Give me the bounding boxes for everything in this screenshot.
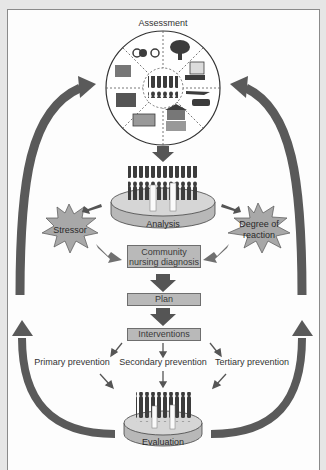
arrow-analysis-to-stressor [82, 204, 102, 214]
ambulance-icon [133, 114, 155, 126]
diagnosis-line2: nursing diagnosis [128, 257, 200, 267]
feedback-arrow-left-bottom [12, 320, 115, 434]
degree-of-reaction-line1: Degree of [234, 219, 284, 230]
feedback-arrow-left-top [20, 76, 96, 295]
community-nursing-diagnosis-box: Community nursing diagnosis [127, 245, 201, 268]
stressor-label: Stressor [48, 225, 92, 235]
evaluation-label: Evaluation [138, 437, 188, 447]
boat-icon [185, 75, 205, 80]
arrow-plan-to-interventions [150, 308, 176, 326]
arrow-reaction-to-diagnosis [203, 244, 229, 263]
telephone-icon [116, 93, 136, 107]
primary-prevention-label: Primary prevention [34, 357, 110, 367]
arrow-assessment-to-analysis [152, 146, 174, 162]
arrow-diagnosis-to-plan [150, 274, 176, 292]
analysis-label: Analysis [138, 219, 188, 229]
assessment-wheel [106, 31, 220, 145]
feedback-arrow-right-bottom [211, 320, 313, 434]
secondary-prevention-label: Secondary prevention [118, 357, 208, 367]
crowd-icon [128, 166, 198, 200]
feedback-arrow-right-top [230, 76, 302, 295]
diagnosis-line1: Community [128, 247, 200, 257]
car-icon [192, 99, 210, 106]
document-icon [190, 62, 204, 74]
arrow-stressor-to-diagnosis [96, 244, 122, 263]
degree-of-reaction-label: Degree of reaction [234, 219, 284, 241]
assessment-label: Assessment [133, 18, 193, 28]
interventions-box: Interventions [127, 328, 201, 341]
degree-of-reaction-line2: reaction [234, 230, 284, 241]
plan-box: Plan [127, 293, 201, 306]
money-icon [115, 65, 131, 77]
arrow-analysis-to-reaction [221, 204, 241, 214]
tertiary-prevention-label: Tertiary prevention [214, 357, 290, 367]
people-icon [148, 76, 178, 98]
crowd-icon [136, 392, 192, 422]
